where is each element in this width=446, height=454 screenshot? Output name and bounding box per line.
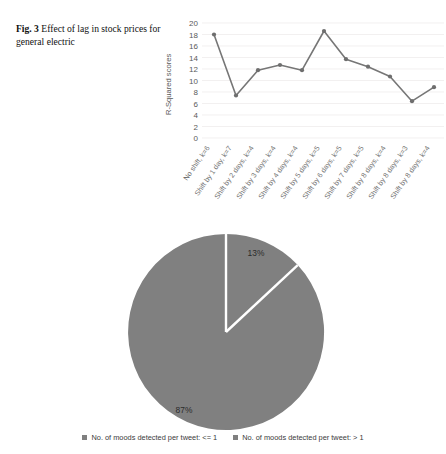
legend-entry-gt1[interactable]: No. of moods detected per tweet: > 1 (233, 434, 363, 441)
x-axis-category-labels: No shift, k=6 Shift by 1 day, k=7 Shift … (181, 144, 431, 201)
x-label-5: Shift by 5 days, k=5 (278, 144, 321, 201)
x-label-6: Shift by 6 days, k=5 (300, 144, 343, 201)
data-point (388, 74, 392, 78)
y-tick-0: 0 (194, 134, 199, 143)
x-label-3: Shift by 3 days, k=4 (234, 144, 277, 201)
figure-number: Fig. 3 (16, 23, 39, 34)
y-tick-16: 16 (189, 42, 198, 51)
y-tick-10: 10 (189, 77, 198, 86)
data-point (234, 93, 238, 97)
y-tick-2: 2 (194, 123, 199, 132)
line-chart-gridlines (202, 23, 444, 138)
data-point (300, 68, 304, 72)
x-label-10: Shift by 8 days, k=4 (388, 144, 431, 201)
y-axis-tick-labels: 20 18 16 14 12 10 8 6 4 2 0 (189, 19, 198, 143)
data-point (278, 63, 282, 67)
data-point (432, 85, 436, 89)
figure-caption: Fig. 3 Effect of lag in stock prices for… (16, 22, 174, 48)
line-chart-rsquared: R-Squared scores 20 18 16 14 12 10 8 6 4… (160, 14, 446, 224)
legend-swatch-icon (233, 435, 238, 440)
y-tick-8: 8 (194, 88, 199, 97)
series-line-rsquared (214, 31, 434, 101)
y-tick-18: 18 (189, 31, 198, 40)
legend-entry-lte1[interactable]: No. of moods detected per tweet: <= 1 (82, 434, 217, 441)
y-tick-20: 20 (189, 19, 198, 28)
pie-legend: No. of moods detected per tweet: <= 1 No… (0, 434, 446, 441)
y-tick-4: 4 (194, 111, 199, 120)
x-label-4: Shift by 4 days, k=4 (256, 144, 299, 201)
data-point (256, 68, 260, 72)
data-point (344, 57, 348, 61)
y-tick-12: 12 (189, 65, 198, 74)
data-point (366, 65, 370, 69)
y-axis-title: R-Squared scores (164, 54, 173, 115)
pie-data-label-13: 13% (248, 248, 265, 258)
y-tick-6: 6 (194, 100, 199, 109)
y-tick-14: 14 (189, 54, 198, 63)
x-label-7: Shift by 7 days, k=5 (322, 144, 365, 201)
data-point (410, 99, 414, 103)
x-label-9: Shift by 8 days, k=3 (366, 144, 409, 201)
legend-label-gt1: No. of moods detected per tweet: > 1 (242, 434, 363, 441)
data-point (322, 29, 326, 33)
pie-data-label-87: 87% (176, 405, 193, 415)
x-label-2: Shift by 2 days, k=4 (212, 144, 255, 201)
legend-swatch-icon (82, 435, 87, 440)
legend-label-lte1: No. of moods detected per tweet: <= 1 (91, 434, 217, 441)
pie-chart-moods: 13% 87% (108, 232, 356, 432)
data-point (212, 32, 216, 36)
x-label-8: Shift by 8 days, k=4 (344, 144, 387, 201)
